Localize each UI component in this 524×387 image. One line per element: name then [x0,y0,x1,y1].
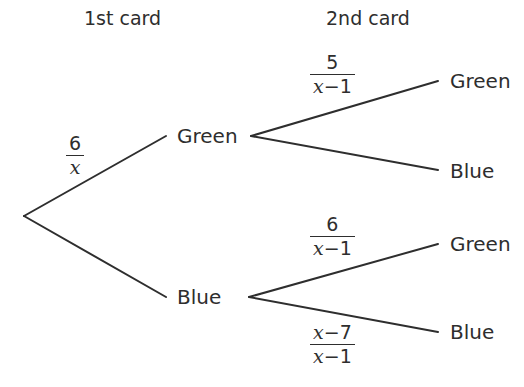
numerator-value: 5 [326,51,338,73]
denominator-rest: −1 [324,237,352,259]
numerator-value: 6 [69,132,81,154]
prob-blue-green: 6 x−1 [310,215,355,258]
branch-root-green [24,136,166,216]
denominator: x−1 [310,239,355,258]
denominator-rest: −1 [324,345,352,367]
numerator: 6 [66,134,84,153]
denominator-rest: −1 [324,75,352,97]
denominator-var: x [70,156,81,178]
numerator-var: x [313,321,324,343]
branch-root-blue [24,216,166,297]
denominator-var: x [313,75,324,97]
prob-blue-blue: x−7 x−1 [310,323,355,366]
numerator: x−7 [310,323,355,342]
prob-green-green: 5 x−1 [310,53,355,96]
prob-first-green: 6 x [66,134,84,177]
node-blue-blue: Blue [450,322,494,342]
denominator: x−1 [310,347,355,366]
numerator: 6 [323,215,341,234]
tree-branches [0,0,524,387]
numerator-value: −7 [324,321,352,343]
denominator-var: x [313,237,324,259]
node-first-blue: Blue [177,287,221,307]
node-first-green: Green [177,126,238,146]
node-green-blue: Blue [450,161,494,181]
node-blue-green: Green [450,234,511,254]
node-green-green: Green [450,71,511,91]
header-first-card: 1st card [84,7,161,29]
denominator: x−1 [310,77,355,96]
denominator: x [67,158,84,177]
header-second-card: 2nd card [326,7,410,29]
numerator: 5 [323,53,341,72]
denominator-var: x [313,345,324,367]
branch-green-blue [251,136,438,170]
numerator-value: 6 [326,213,338,235]
